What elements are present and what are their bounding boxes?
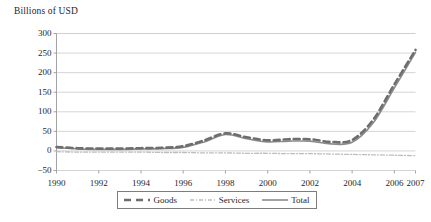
series-lines — [57, 50, 416, 156]
x-axis-tick-label: 2006 — [385, 179, 403, 188]
legend-swatch-goods — [124, 196, 150, 204]
legend-item-services: Services — [190, 196, 250, 205]
y-axis-tick-label: 100 — [16, 107, 52, 116]
legend-swatch-services — [190, 196, 216, 204]
series-line-goods — [57, 50, 416, 149]
chart-legend: Goods Services Total — [117, 191, 317, 209]
legend-label-services: Services — [219, 196, 250, 205]
x-axis-tick-label: 1998 — [216, 179, 234, 188]
x-axis-tick-label: 2002 — [301, 179, 319, 188]
legend-label-total: Total — [291, 196, 309, 205]
plot-area — [0, 0, 431, 222]
legend-item-total: Total — [262, 196, 309, 205]
y-axis-tick-label: 250 — [16, 49, 52, 58]
y-axis-tick-label: 50 — [16, 127, 52, 136]
series-line-services — [57, 152, 416, 156]
x-axis-tick-label: 1990 — [48, 179, 66, 188]
chart-container: Billions of USD 300250200150100500−50 19… — [0, 0, 431, 222]
x-axis-tick-label: 1994 — [132, 179, 150, 188]
legend-swatch-total — [262, 196, 288, 204]
legend-item-goods: Goods — [124, 196, 177, 205]
legend-label-goods: Goods — [153, 196, 177, 205]
y-axis-tick-label: 0 — [16, 146, 52, 155]
y-axis-tick-label: −50 — [16, 166, 52, 175]
y-axis-tick-label: 150 — [16, 88, 52, 97]
x-axis-tick-label: 1996 — [174, 179, 192, 188]
x-axis-tick-label: 2007 — [407, 179, 425, 188]
x-axis-tick-label: 2000 — [259, 179, 277, 188]
x-axis-tick-label: 1992 — [90, 179, 108, 188]
y-axis-tick-label: 300 — [16, 29, 52, 38]
y-axis-tick-label: 200 — [16, 68, 52, 77]
x-axis-tick-label: 2004 — [343, 179, 361, 188]
